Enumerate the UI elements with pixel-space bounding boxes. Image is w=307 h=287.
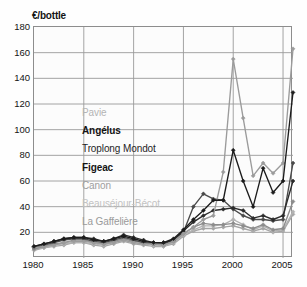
y-tick-180: 180 [14, 21, 30, 32]
y-tick-160: 160 [14, 46, 30, 57]
legend-item-troplong-mondot: Troplong Mondot [82, 140, 160, 158]
series-ang-lus [32, 90, 295, 248]
x-tick-1980: 1980 [22, 259, 43, 270]
chart-legend: PavieAngélusTroplong MondotFigeacCanonBe… [82, 104, 160, 231]
y-tick-140: 140 [14, 72, 30, 83]
x-tick-2000: 2000 [222, 259, 243, 270]
legend-item-ang-lus: Angélus [82, 122, 160, 140]
y-axis-tick-labels: 20406080100120140160180 [0, 26, 30, 257]
x-tick-1985: 1985 [72, 259, 93, 270]
y-tick-20: 20 [19, 226, 30, 237]
legend-item-la-gaffeli-re: La Gaffelière [82, 213, 160, 231]
x-tick-2005: 2005 [271, 259, 292, 270]
series-troplong-mondot [32, 161, 295, 250]
y-tick-100: 100 [14, 123, 30, 134]
x-tick-1995: 1995 [172, 259, 193, 270]
legend-item-canon: Canon [82, 177, 160, 195]
x-axis-tick-labels: 198019851990199520002005 [33, 259, 292, 279]
plot-area [33, 26, 292, 257]
legend-item-pavie: Pavie [82, 104, 160, 122]
series-lines [34, 27, 293, 258]
legend-item-figeac: Figeac [82, 159, 160, 177]
y-tick-40: 40 [19, 200, 30, 211]
y-axis-unit-label: €/bottle [32, 10, 66, 21]
legend-item-beaus-jour-b-cot: Beauséjour-Bécot [82, 195, 160, 213]
y-tick-80: 80 [19, 149, 30, 160]
x-tick-1990: 1990 [122, 259, 143, 270]
y-tick-120: 120 [14, 98, 30, 109]
y-tick-60: 60 [19, 175, 30, 186]
chart-container: €/bottle 20406080100120140160180 1980198… [0, 0, 307, 287]
